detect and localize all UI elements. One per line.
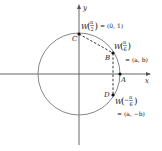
label-a: A bbox=[120, 76, 126, 84]
annotation-d: W ( − π 6 ) = (a, −b) bbox=[115, 94, 145, 117]
y-axis-arrow-icon bbox=[77, 4, 81, 9]
svg-text:= (a, −b): = (a, −b) bbox=[117, 110, 145, 117]
svg-text:): ) bbox=[95, 21, 99, 31]
unit-circle-diagram: x y A B C D W ( π 2 ) = (0, 1) W ( π 6 )… bbox=[0, 0, 162, 151]
svg-text:2: 2 bbox=[91, 26, 94, 32]
point-d bbox=[111, 93, 114, 96]
annotation-b: W ( π 6 ) = (a, b) bbox=[114, 39, 148, 63]
x-axis-label: x bbox=[145, 77, 149, 85]
svg-text:6: 6 bbox=[124, 46, 127, 52]
svg-text:π: π bbox=[129, 94, 133, 100]
svg-text:6: 6 bbox=[130, 101, 133, 107]
x-axis-arrow-icon bbox=[146, 72, 151, 76]
point-b bbox=[111, 51, 114, 54]
y-axis-label: y bbox=[82, 4, 88, 12]
label-b: B bbox=[104, 54, 110, 62]
point-c bbox=[77, 32, 80, 35]
svg-text:= (0, 1): = (0, 1) bbox=[100, 22, 123, 29]
svg-text:= (a, b): = (a, b) bbox=[125, 56, 148, 63]
annotation-c: W ( π 2 ) = (0, 1) bbox=[81, 19, 123, 32]
label-c: C bbox=[72, 35, 78, 43]
label-d: D bbox=[103, 91, 110, 99]
svg-text:): ) bbox=[134, 96, 138, 106]
svg-text:π: π bbox=[90, 19, 94, 25]
svg-text:): ) bbox=[128, 41, 132, 51]
svg-text:π: π bbox=[123, 39, 127, 45]
